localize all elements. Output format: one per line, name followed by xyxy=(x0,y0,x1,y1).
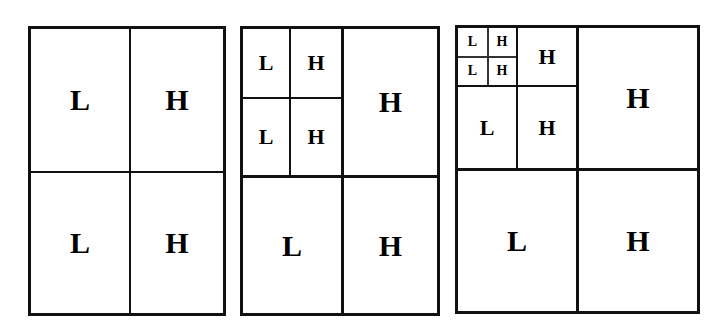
panel3-label-l2-bottom-left: L xyxy=(458,87,516,168)
panel1-label-bottom-left: L xyxy=(31,173,129,313)
panel3-label-l1-bottom-left: L xyxy=(458,171,576,311)
panel2-cell-l2-bottom-left: L xyxy=(243,99,289,175)
panel3-cell-l3-bottom-left: L xyxy=(458,57,487,85)
panel1-cell-bottom-right: H xyxy=(131,173,223,313)
panel3-cell-l2-bottom-right: H xyxy=(518,87,576,168)
panel3-cell-l2-bottom-left: L xyxy=(458,87,516,168)
panel2-label-l2-bottom-left: L xyxy=(243,99,289,175)
panel2-cell-l1-bottom-right: H xyxy=(344,178,437,313)
subband-decomposition-figure: L H L H L H L H H xyxy=(0,0,719,331)
panel2-cell-l1-top-right: H xyxy=(344,29,437,175)
panel-two-level-decomposition: L H L H H L H xyxy=(240,26,440,316)
panel3-cell-l3-top-right: H xyxy=(488,28,516,56)
panel-three-level-decomposition: L H L H H L H H L H xyxy=(455,25,700,314)
panel2-label-l1-bottom-left: L xyxy=(243,178,341,313)
panel2-cell-l1-bottom-left: L xyxy=(243,178,341,313)
panel2-label-l2-top-left: L xyxy=(243,29,289,97)
panel2-cell-l2-top-left: L xyxy=(243,29,289,97)
panel2-cell-l2-top-right: H xyxy=(291,29,341,97)
panel2-cell-l2-bottom-right: H xyxy=(291,99,341,175)
panel1-label-top-left: L xyxy=(31,29,129,171)
panel2-label-l2-top-right: H xyxy=(291,29,341,97)
panel3-cell-l3-top-left: L xyxy=(458,28,487,56)
panel1-cell-top-right: H xyxy=(131,29,223,171)
panel3-cell-l1-top-right: H xyxy=(579,28,697,168)
panel3-cell-l3-bottom-right: H xyxy=(488,57,516,85)
panel3-cell-l1-bottom-right: H xyxy=(579,171,697,311)
panel1-cell-top-left: L xyxy=(31,29,129,171)
panel3-label-l3-top-right: H xyxy=(488,28,516,56)
panel3-label-l2-bottom-right: H xyxy=(518,87,576,168)
panel-one-level-decomposition: L H L H xyxy=(28,26,226,316)
panel2-label-l1-bottom-right: H xyxy=(344,178,437,313)
panel3-label-l3-bottom-left: L xyxy=(458,57,487,85)
panel2-label-l2-bottom-right: H xyxy=(291,99,341,175)
panel1-label-bottom-right: H xyxy=(131,173,223,313)
panel3-label-l3-top-left: L xyxy=(458,28,487,56)
panel2-label-l1-top-right: H xyxy=(344,29,437,175)
panel3-label-l2-top-right: H xyxy=(518,28,576,85)
panel3-cell-l2-top-right: H xyxy=(518,28,576,85)
panel3-cell-l1-bottom-left: L xyxy=(458,171,576,311)
panel1-label-top-right: H xyxy=(131,29,223,171)
panel3-label-l1-bottom-right: H xyxy=(579,171,697,311)
panel1-cell-bottom-left: L xyxy=(31,173,129,313)
panel3-label-l3-bottom-right: H xyxy=(488,57,516,85)
panel3-label-l1-top-right: H xyxy=(579,28,697,168)
